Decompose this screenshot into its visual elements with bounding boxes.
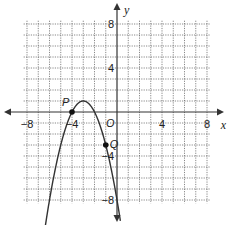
x-tick-label: −4 <box>66 118 79 130</box>
y-tick-label: 8 <box>108 18 114 30</box>
point-q <box>103 142 109 148</box>
x-tick-label: −8 <box>21 118 34 130</box>
y-axis-arrow-up <box>114 3 121 10</box>
x-axis-label: x <box>220 118 227 132</box>
x-axis-arrow-right <box>217 109 224 116</box>
point-p <box>69 109 75 115</box>
y-tick-label: −4 <box>101 150 114 162</box>
y-tick-label: 4 <box>108 62 114 74</box>
point-label-p: P <box>62 96 70 108</box>
y-axis-label: y <box>123 3 130 17</box>
point-label-q: Q <box>110 138 119 150</box>
x-axis-arrow-left <box>4 109 11 116</box>
axes <box>4 3 224 222</box>
x-tick-label: 4 <box>159 118 165 130</box>
x-tick-label: 8 <box>204 118 210 130</box>
coordinate-plane: −8−44884−4−8xyOPQ <box>0 0 230 225</box>
y-tick-label: −8 <box>101 194 114 206</box>
origin-label: O <box>106 117 115 129</box>
